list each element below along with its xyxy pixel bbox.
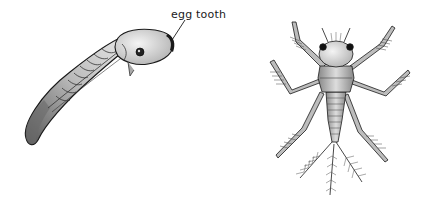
- embryo-eye: [136, 48, 144, 56]
- illustration-canvas: egg tooth: [0, 0, 431, 205]
- label-leader-line: [172, 20, 185, 40]
- nymph-eye-left: [320, 44, 327, 51]
- embryo-head: [115, 29, 173, 64]
- egg-tooth-label: egg tooth: [171, 8, 226, 21]
- nymph-abdomen: [326, 92, 346, 142]
- illustration-svg: [0, 0, 431, 205]
- nymph-cerci: [296, 142, 366, 195]
- nymph-eye-right: [347, 44, 354, 51]
- nymph-figure: [270, 22, 410, 195]
- nymph-thorax: [318, 66, 354, 92]
- embryo-figure: [25, 20, 185, 145]
